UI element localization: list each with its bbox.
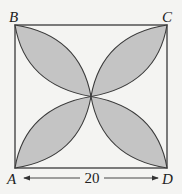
- vertex-label-c: C: [162, 9, 173, 25]
- vertex-label-a: A: [6, 171, 17, 187]
- shaded-petals: [15, 25, 167, 168]
- geometry-diagram: B C A D 20: [0, 0, 182, 194]
- side-length-label: 20: [85, 170, 100, 186]
- vertex-label-d: D: [161, 171, 173, 187]
- vertex-label-b: B: [9, 9, 18, 25]
- petal-c: [91, 25, 167, 97]
- petal-a: [15, 97, 91, 169]
- petal-b: [15, 25, 91, 97]
- petal-d: [91, 97, 167, 169]
